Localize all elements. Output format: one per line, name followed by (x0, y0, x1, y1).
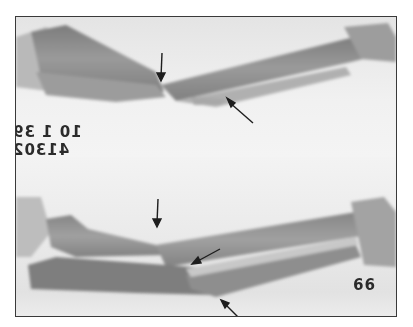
xray-view-top: 10 1 39 41302 (16, 17, 396, 157)
xray-view-bottom (16, 157, 396, 316)
forearm-bones-bottom (16, 157, 396, 316)
film-date-label: 10 1 39 (15, 123, 82, 141)
xray-film: 10 1 39 41302 (15, 16, 397, 317)
film-corner-number: 99 (352, 274, 375, 292)
